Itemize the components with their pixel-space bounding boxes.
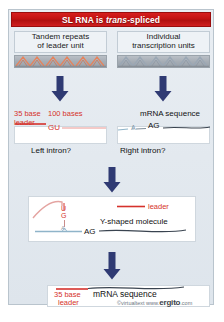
- branch-point-label-stage2: A: [131, 124, 136, 131]
- right-intron-question: Right intron?: [120, 146, 165, 155]
- donor-site-label: GU: [48, 124, 60, 132]
- header-units-line2: transcription units: [132, 41, 195, 50]
- y-shaped-caption: Y-shaped molecule: [100, 218, 168, 226]
- leader-word-label: leader: [14, 119, 35, 127]
- repeat-band-leader: [14, 55, 107, 68]
- figure-title-bar: SL RNA is trans-spliced: [11, 12, 211, 27]
- figure-title: SL RNA is trans-spliced: [62, 15, 160, 25]
- credit-copyright: ©virtualtext www.: [117, 300, 159, 306]
- arrow-right-top: [154, 76, 172, 102]
- credit-line: ©virtualtext www.ergito.com: [117, 298, 192, 307]
- leader-legend-label: leader: [148, 203, 169, 211]
- repeat-zigzag-gray: [118, 56, 209, 67]
- header-transcription-units: Individual transcription units: [117, 31, 210, 53]
- arrow-bottom: [103, 252, 121, 280]
- credit-brand: ergito: [159, 298, 180, 307]
- figure-root: SL RNA is trans-spliced Tandem repeats o…: [0, 0, 224, 322]
- repeat-zigzag-orange: [15, 56, 106, 67]
- arrow-left-top: [51, 76, 69, 102]
- header-units-line1: Individual: [147, 32, 181, 41]
- final-leader-word: leader: [58, 299, 79, 307]
- mrna-sequence-label-stage2: mRNA sequence: [140, 110, 200, 118]
- left-intron-box: [14, 126, 107, 144]
- header-tandem-line2: of leader unit: [37, 41, 83, 50]
- branch-point-label-stage3: A: [61, 225, 65, 231]
- header-tandem-repeats: Tandem repeats of leader unit: [14, 31, 107, 53]
- credit-tld: .com: [180, 300, 192, 306]
- g-base-label: G: [61, 212, 66, 219]
- arrow-middle: [103, 167, 121, 193]
- acceptor-site-label-stage3: AG: [84, 228, 96, 236]
- repeat-band-units: [117, 55, 210, 68]
- header-tandem-line1: Tandem repeats: [32, 32, 89, 41]
- left-intron-question: Left intron?: [31, 146, 71, 155]
- acceptor-site-label-stage2: AG: [148, 122, 160, 130]
- intron-length-label: 100 bases: [48, 110, 83, 118]
- leader-length-label: 35 base: [14, 110, 41, 118]
